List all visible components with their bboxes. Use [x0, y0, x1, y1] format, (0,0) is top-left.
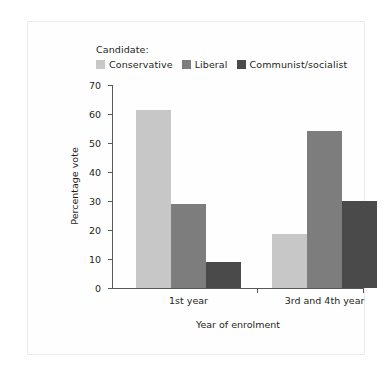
bar	[307, 131, 342, 288]
bar	[171, 204, 206, 288]
x-tick-label: 1st year	[169, 295, 208, 306]
y-tick-40: 40	[108, 172, 112, 173]
legend-swatch-communist-socialist	[237, 60, 246, 69]
y-tick-30: 30	[108, 201, 112, 202]
x-axis-line	[112, 288, 364, 289]
bar	[206, 262, 241, 288]
legend-entry-communist-socialist: Communist/socialist	[237, 59, 348, 70]
y-axis-title: Percentage vote	[69, 147, 80, 224]
legend-entry-liberal: Liberal	[182, 59, 228, 70]
legend-swatch-liberal	[182, 60, 191, 69]
y-tick-0: 0	[108, 288, 112, 289]
bar	[136, 110, 171, 288]
x-tick-divider	[257, 289, 258, 293]
legend-label-conservative: Conservative	[109, 59, 173, 70]
y-tick-label-50: 50	[89, 138, 101, 149]
x-tick-label: 3rd and 4th year	[285, 295, 365, 306]
y-tick-label-30: 30	[89, 196, 101, 207]
y-tick-label-60: 60	[89, 109, 101, 120]
y-tick-20: 20	[108, 230, 112, 231]
y-tick-50: 50	[108, 143, 112, 144]
legend-label-communist-socialist: Communist/socialist	[250, 59, 348, 70]
legend-title: Candidate:	[96, 44, 364, 55]
y-tick-label-0: 0	[95, 283, 101, 294]
y-tick-label-20: 20	[89, 225, 101, 236]
x-axis-end-cap	[363, 288, 364, 293]
y-tick-label-70: 70	[89, 80, 101, 91]
legend-swatch-conservative	[96, 60, 105, 69]
legend-entries: Conservative Liberal Communist/socialist	[96, 59, 364, 70]
y-axis-line	[112, 85, 113, 288]
chart-figure: Candidate: Conservative Liberal Communis…	[27, 21, 365, 355]
y-tick-10: 10	[108, 259, 112, 260]
plot-area: 010203040506070 1st year3rd and 4th year	[112, 85, 364, 288]
bar	[342, 201, 377, 288]
y-tick-label-40: 40	[89, 167, 101, 178]
bar	[272, 234, 307, 288]
y-tick-70: 70	[108, 85, 112, 86]
x-axis-title: Year of enrolment	[196, 319, 280, 330]
chart-legend: Candidate: Conservative Liberal Communis…	[96, 44, 364, 70]
legend-label-liberal: Liberal	[195, 59, 228, 70]
legend-entry-conservative: Conservative	[96, 59, 173, 70]
y-tick-label-10: 10	[89, 254, 101, 265]
y-tick-60: 60	[108, 114, 112, 115]
